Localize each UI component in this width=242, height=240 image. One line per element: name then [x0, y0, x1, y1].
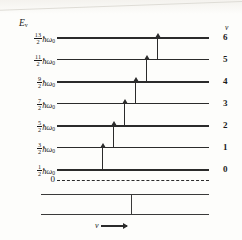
- spectrum-bottom-rule: [41, 214, 209, 215]
- energy-label-v3: 72ħω0: [37, 98, 55, 112]
- bottom-axis-label-group: v: [95, 222, 127, 230]
- omega-subscript: 0: [52, 148, 55, 154]
- fraction-denominator: 2: [34, 39, 42, 45]
- quantum-number-label-2: 2: [223, 121, 228, 130]
- transition-arrow-v5-to-v6: [157, 37, 158, 59]
- energy-axis-title: Ev: [19, 19, 28, 29]
- zero-reference-line: [57, 180, 209, 181]
- zero-axis-label: 0: [51, 175, 56, 184]
- bottom-axis-label: v: [95, 222, 99, 230]
- transition-arrow-v4-to-v5: [146, 59, 147, 81]
- omega-subscript: 0: [52, 126, 55, 132]
- energy-label-v1: 32ħω0: [37, 142, 55, 156]
- omega-subscript: 0: [52, 60, 55, 66]
- transition-arrow-v2-to-v3: [124, 103, 125, 125]
- energy-axis-title-subscript: v: [25, 22, 28, 28]
- quantum-number-heading: v: [225, 24, 228, 32]
- quantum-number-label-4: 4: [223, 77, 228, 86]
- energy-label-v6: 132ħω0: [34, 32, 55, 46]
- energy-level-diagram: Ev v 132ħω06112ħω0592ħω0472ħω0352ħω0232ħ…: [0, 0, 242, 240]
- spectrum-top-rule: [41, 194, 209, 195]
- transition-arrow-v0-to-v1: [102, 147, 103, 169]
- spectrum-tick-mark: [131, 194, 132, 214]
- energy-fraction-v5: 112: [34, 54, 41, 68]
- energy-fraction-v6: 132: [34, 32, 42, 46]
- transition-arrow-v3-to-v4: [135, 81, 136, 103]
- quantum-number-label-6: 6: [223, 33, 228, 42]
- energy-level-line-v3: [57, 103, 209, 104]
- energy-level-line-v5: [57, 59, 209, 60]
- fraction-denominator: 2: [34, 61, 41, 67]
- omega-subscript: 0: [52, 104, 55, 110]
- energy-level-line-v2: [57, 125, 209, 127]
- energy-label-v4: 92ħω0: [37, 76, 55, 90]
- energy-level-line-v0: [57, 169, 209, 171]
- energy-level-line-v6: [57, 37, 209, 39]
- quantum-number-label-0: 0: [223, 165, 228, 174]
- energy-label-v5: 112ħω0: [34, 54, 55, 68]
- omega-subscript: 0: [52, 38, 55, 44]
- quantum-number-label-3: 3: [223, 99, 228, 108]
- quantum-number-label-1: 1: [223, 143, 228, 152]
- transition-arrow-v1-to-v2: [113, 125, 114, 147]
- energy-level-line-v1: [57, 147, 209, 148]
- energy-label-v2: 52ħω0: [37, 120, 55, 134]
- omega-subscript: 0: [52, 82, 55, 88]
- quantum-number-label-5: 5: [223, 55, 228, 64]
- right-arrow-icon: [101, 225, 127, 226]
